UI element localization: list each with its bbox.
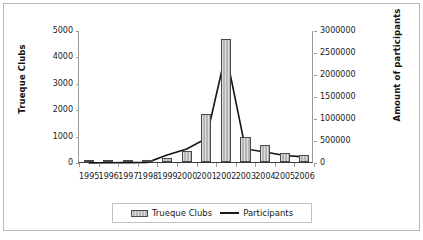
x-axis-tick-label: 2002 [216,172,236,181]
x-axis-tick-label: 2005 [275,172,295,181]
x-axis-tick-mark [216,163,217,167]
y-axis-left-tick-label: 5000 [13,26,73,35]
y-axis-right-tick-mark [314,119,317,120]
x-axis-tick-mark [99,163,100,167]
bar-trueque-clubs [162,158,172,162]
chart-figure: Trueque Clubs Amount of participants 010… [0,0,423,240]
x-axis-tick-mark [118,163,119,167]
x-axis-tick-mark [314,163,315,167]
y-axis-right-tick-label: 0 [320,158,390,167]
participants-line-path [89,53,304,163]
bar-trueque-clubs [299,155,309,162]
y-axis-right-tick-mark [314,75,317,76]
chart-legend: Trueque ClubsParticipants [112,203,312,223]
legend-label: Participants [243,208,293,218]
bar-trueque-clubs [142,160,152,162]
y-axis-left-tick-mark [76,31,79,32]
bar-trueque-clubs [240,137,250,162]
y-axis-left-tick-mark [76,137,79,138]
y-axis-right-tick-label: 500000 [320,136,390,145]
x-axis-tick-label: 1997 [118,172,138,181]
y-axis-right-tick-mark [314,141,317,142]
y-axis-left-tick-label: 2000 [13,105,73,114]
plot-inner [79,31,312,162]
legend-label: Trueque Clubs [152,208,212,218]
y-axis-left-tick-label: 4000 [13,52,73,61]
x-axis-tick-label: 2001 [197,172,217,181]
x-axis-tick-mark [197,163,198,167]
y-axis-right-tick-label: 3000000 [320,26,390,35]
y-axis-right-tick-mark [314,31,317,32]
plot-area: 0100020003000400050000500000100000015000… [78,31,313,163]
y-axis-right-tick-label: 2000000 [320,70,390,79]
bar-trueque-clubs [103,160,113,162]
legend-entry[interactable]: Participants [220,208,293,218]
bar-trueque-clubs [280,153,290,163]
x-axis-tick-mark [255,163,256,167]
x-axis-tick-mark [294,163,295,167]
bar-trueque-clubs [260,145,270,162]
x-axis-tick-label: 1995 [79,172,99,181]
bar-trueque-clubs [182,151,192,162]
bar-trueque-clubs [123,160,133,162]
y-axis-left-tick-label: 3000 [13,79,73,88]
y-axis-right-tick-label: 1000000 [320,114,390,123]
bar-trueque-clubs [221,39,231,162]
x-axis-tick-label: 2004 [255,172,275,181]
y-axis-left-tick-mark [76,110,79,111]
x-axis-tick-label: 2003 [236,172,256,181]
legend-entry[interactable]: Trueque Clubs [131,208,212,218]
y-axis-left-tick-mark [76,57,79,58]
x-axis-tick-label: 2006 [294,172,314,181]
x-axis-tick-label: 1998 [138,172,158,181]
x-axis-tick-mark [157,163,158,167]
y-axis-left-tick-mark [76,84,79,85]
bar-trueque-clubs [201,114,211,162]
y-axis-right-title: Amount of participants [392,0,402,135]
x-axis-tick-label: 1996 [99,172,119,181]
legend-line-swatch-icon [220,212,239,214]
y-axis-right-tick-mark [314,53,317,54]
y-axis-right-tick-label: 1500000 [320,92,390,101]
y-axis-right-tick-label: 2500000 [320,48,390,57]
legend-bar-swatch-icon [131,210,148,217]
y-axis-left-tick-label: 0 [13,158,73,167]
y-axis-right-tick-mark [314,97,317,98]
participants-line-series [79,31,314,163]
x-axis-tick-mark [275,163,276,167]
x-axis-tick-label: 1999 [157,172,177,181]
x-axis-tick-mark [236,163,237,167]
x-axis-tick-mark [177,163,178,167]
x-axis-tick-mark [79,163,80,167]
x-axis-tick-label: 2000 [177,172,197,181]
y-axis-left-tick-label: 1000 [13,132,73,141]
bar-trueque-clubs [84,160,94,162]
x-axis-tick-mark [138,163,139,167]
